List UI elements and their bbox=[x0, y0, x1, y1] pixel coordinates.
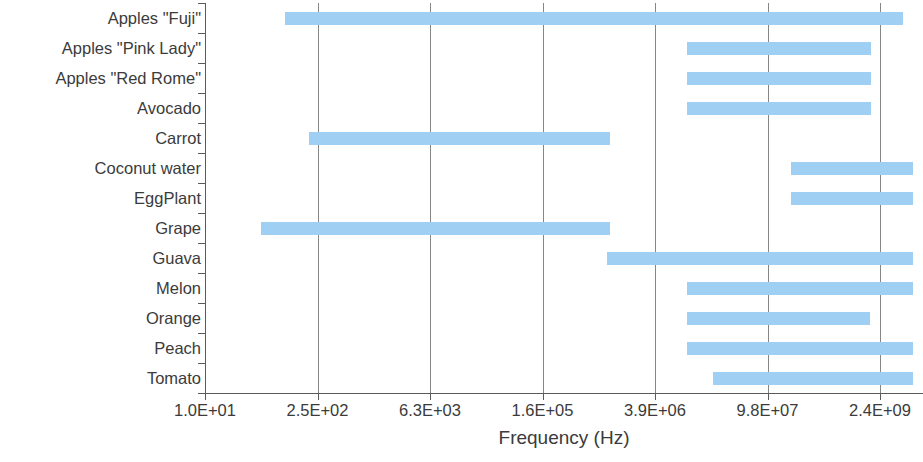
plot-area bbox=[205, 3, 923, 393]
y-axis-category-labels: Apples "Fuji"Apples "Pink Lady"Apples "R… bbox=[0, 0, 201, 400]
gridline bbox=[318, 3, 319, 393]
y-axis-tick bbox=[198, 3, 206, 4]
y-axis-category-label: Coconut water bbox=[5, 160, 201, 177]
y-axis-category-label: Tomato bbox=[5, 370, 201, 387]
x-axis-tick bbox=[430, 393, 431, 400]
y-axis-tick bbox=[198, 303, 206, 304]
range-bar bbox=[687, 282, 913, 295]
x-axis-tick-label: 2.4E+09 bbox=[849, 402, 911, 419]
y-axis-category-label: Guava bbox=[5, 250, 201, 267]
y-axis-category-label: Grape bbox=[5, 220, 201, 237]
y-axis-category-label: Orange bbox=[5, 310, 201, 327]
range-bar bbox=[309, 132, 610, 145]
x-axis-title: Frequency (Hz) bbox=[205, 428, 923, 447]
x-axis-tick bbox=[543, 393, 544, 400]
y-axis-category-label: Apples "Red Rome" bbox=[5, 70, 201, 87]
range-bar bbox=[687, 42, 871, 55]
y-axis-category-label: Apples "Pink Lady" bbox=[5, 40, 201, 57]
y-axis-tick bbox=[198, 363, 206, 364]
x-axis-line bbox=[205, 393, 923, 394]
y-axis-category-label: EggPlant bbox=[5, 190, 201, 207]
gridline bbox=[655, 3, 656, 393]
y-axis-category-label: Melon bbox=[5, 280, 201, 297]
x-axis-tick-label: 6.3E+03 bbox=[399, 402, 461, 419]
y-axis-tick bbox=[198, 153, 206, 154]
range-bar bbox=[713, 372, 913, 385]
range-bar bbox=[687, 102, 871, 115]
gridline bbox=[430, 3, 431, 393]
range-bar bbox=[791, 162, 913, 175]
y-axis-tick bbox=[198, 333, 206, 334]
x-axis-tick-label: 9.8E+07 bbox=[737, 402, 799, 419]
y-axis-line bbox=[205, 3, 206, 394]
x-axis-tick-label: 3.9E+06 bbox=[624, 402, 686, 419]
x-axis-tick-label: 1.0E+01 bbox=[174, 402, 236, 419]
x-axis-tick-label: 2.5E+02 bbox=[287, 402, 349, 419]
range-bar bbox=[261, 222, 610, 235]
y-axis-tick bbox=[198, 123, 206, 124]
range-bar bbox=[687, 312, 870, 325]
y-axis-tick bbox=[198, 63, 206, 64]
y-axis-tick bbox=[198, 213, 206, 214]
range-bar bbox=[687, 342, 913, 355]
x-axis-tick bbox=[768, 393, 769, 400]
x-axis-tick bbox=[880, 393, 881, 400]
y-axis-tick bbox=[198, 183, 206, 184]
x-axis-tick bbox=[318, 393, 319, 400]
range-bar bbox=[607, 252, 913, 265]
y-axis-category-label: Avocado bbox=[5, 100, 201, 117]
gridline bbox=[768, 3, 769, 393]
x-axis-tick bbox=[205, 393, 206, 400]
x-axis-tick bbox=[655, 393, 656, 400]
y-axis-tick bbox=[198, 273, 206, 274]
y-axis-tick bbox=[198, 93, 206, 94]
y-axis-category-label: Peach bbox=[5, 340, 201, 357]
range-bar bbox=[687, 72, 871, 85]
range-bar bbox=[285, 12, 903, 25]
gridline bbox=[543, 3, 544, 393]
y-axis-category-label: Apples "Fuji" bbox=[5, 10, 201, 27]
y-axis-tick bbox=[198, 33, 206, 34]
x-axis-tick-label: 1.6E+05 bbox=[512, 402, 574, 419]
y-axis-tick bbox=[198, 243, 206, 244]
y-axis-category-label: Carrot bbox=[5, 130, 201, 147]
frequency-range-chart: Apples "Fuji"Apples "Pink Lady"Apples "R… bbox=[0, 0, 923, 462]
range-bar bbox=[791, 192, 913, 205]
